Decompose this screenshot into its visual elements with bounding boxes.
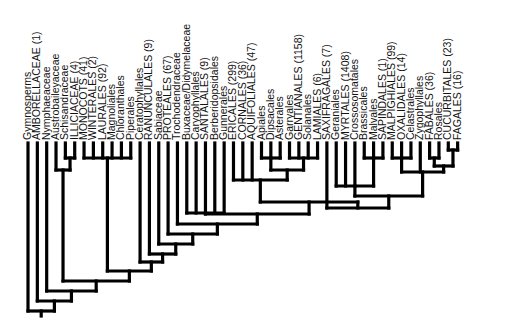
taxon-labels: GymnospermsAMBORELLACEAE (1)Nymphaeaceae… — [21, 24, 463, 140]
tree-branches — [28, 143, 458, 316]
phylogenetic-tree: GymnospermsAMBORELLACEAE (1)Nymphaeaceae… — [0, 0, 506, 329]
taxon-label: FAGALES (16) — [451, 71, 463, 140]
